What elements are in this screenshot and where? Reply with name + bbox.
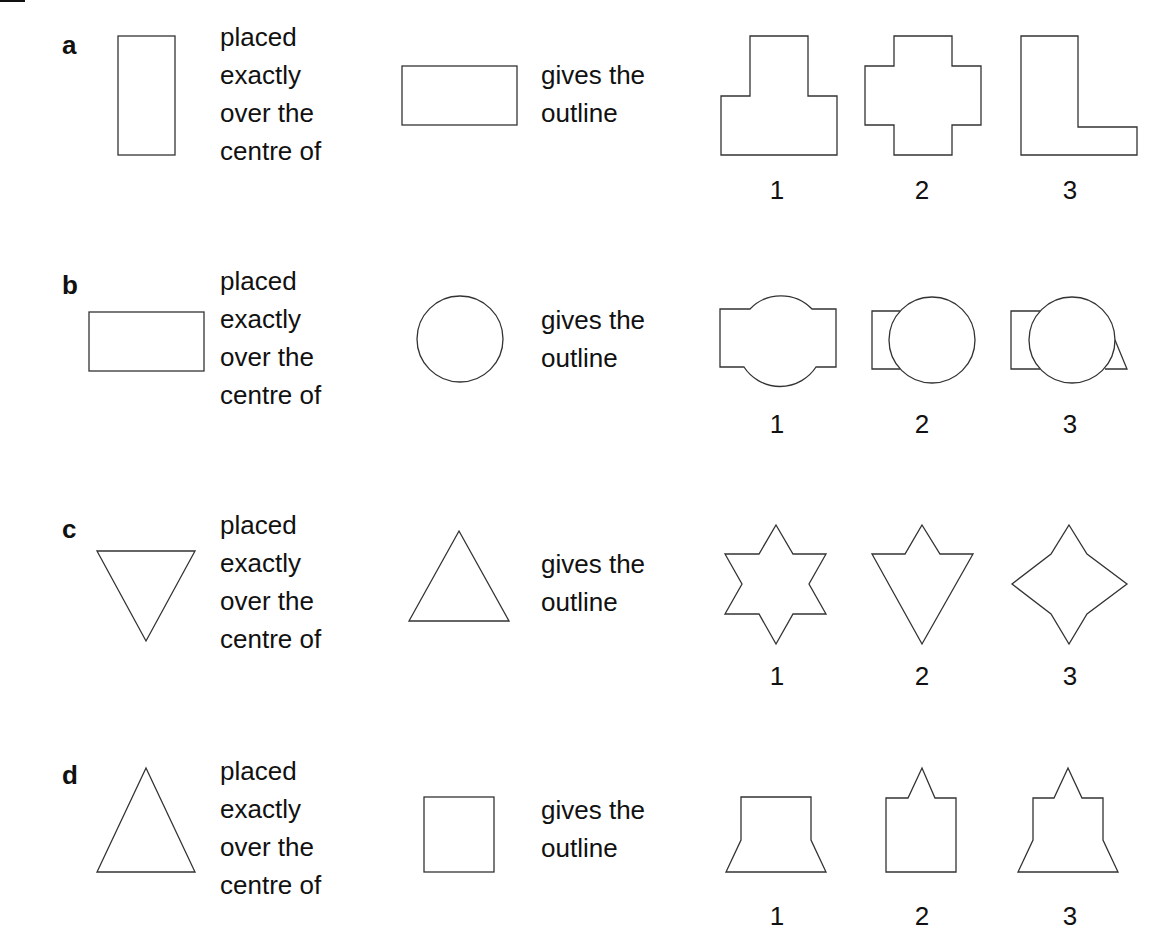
phrase-gives-outline: gives the outline [541, 791, 645, 867]
option-1-label: 1 [757, 411, 797, 437]
phrase-placed-over: placed exactly over the centre of [220, 262, 321, 414]
option-3-label: 3 [1050, 903, 1090, 929]
phrase-placed-over: placed exactly over the centre of [220, 506, 321, 658]
option-3-pointed-flared-shape[interactable] [0, 0, 10, 10]
question-d: d placed exactly over the centre of give… [0, 0, 1152, 230]
option-2-label: 2 [902, 903, 942, 929]
question-letter: c [62, 516, 76, 542]
option-2-label: 2 [902, 663, 942, 689]
phrase-gives-outline: gives the outline [541, 545, 645, 621]
question-letter: d [62, 762, 78, 788]
option-3-label: 3 [1050, 663, 1090, 689]
question-letter: b [62, 272, 78, 298]
option-2-label: 2 [902, 411, 942, 437]
phrase-placed-over: placed exactly over the centre of [220, 752, 321, 904]
option-3-label: 3 [1050, 411, 1090, 437]
option-1-label: 1 [757, 663, 797, 689]
phrase-gives-outline: gives the outline [541, 301, 645, 377]
option-1-label: 1 [757, 903, 797, 929]
